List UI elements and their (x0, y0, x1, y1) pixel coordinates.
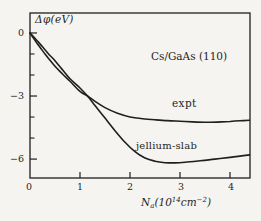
x-tick-label-2: 2 (120, 181, 140, 193)
system-annotation: Cs/GaAs (110) (151, 50, 227, 62)
y-axis-title: Δφ(eV) (35, 13, 74, 25)
y-tick-label-0: 0 (6, 27, 24, 39)
series-label-expt: expt (172, 97, 197, 109)
x-tick-label-1: 1 (70, 181, 90, 193)
x-axis-unit-exponent: −2 (197, 196, 207, 204)
x-axis-title: Na(1014cm−2) (141, 196, 211, 208)
series-label-jellium-slab: jellium-slab (136, 140, 197, 151)
curve-expt (30, 33, 250, 122)
x-axis-unit: cm (181, 196, 197, 208)
x-tick-label-0: 0 (19, 181, 39, 193)
plot-frame (30, 13, 250, 178)
x-axis-exponent: 14 (172, 196, 181, 204)
x-axis-symbol: N (141, 196, 150, 208)
x-tick-label-3: 3 (171, 181, 191, 193)
x-tick-label-4: 4 (221, 181, 241, 193)
y-tick-label-minus3: −3 (6, 90, 24, 102)
x-axis-close-paren: ) (207, 196, 211, 208)
x-axis-paren: (10 (154, 196, 171, 208)
y-tick-label-minus6: −6 (6, 153, 24, 165)
work-function-chart: Δφ(eV) Cs/GaAs (110) expt jellium-slab 0… (0, 0, 261, 221)
